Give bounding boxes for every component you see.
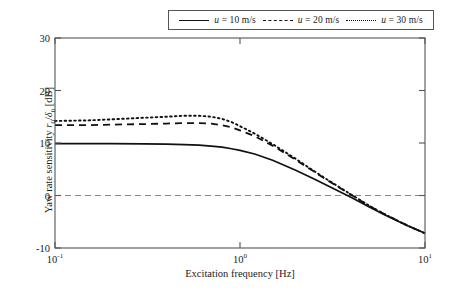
y-axis-label-symbol-den: δ xyxy=(43,112,54,117)
x-axis-tick-labels: 10-1 100 101 xyxy=(0,0,450,294)
y-axis-label-symbol-num-sub: 0 xyxy=(49,120,57,124)
x-tick-mantissa-10: 10 xyxy=(418,254,429,265)
x-tick-exponent-0p1: -1 xyxy=(57,252,63,260)
x-axis-label: Excitation frequency [Hz] xyxy=(55,268,425,279)
y-axis-label-symbol-den-sub: 0 xyxy=(49,109,57,113)
y-axis-label-suffix: [dB] xyxy=(43,87,54,109)
y-axis-label-prefix: Yaw rate sensitivity xyxy=(43,128,54,214)
chart-figure: u = 10 m/s u = 20 m/s u = 30 m/s 30 20 1… xyxy=(0,0,450,294)
y-axis-label: Yaw rate sensitivity r0/δ0 [dB] xyxy=(43,40,57,260)
x-tick-mantissa-1: 10 xyxy=(233,254,244,265)
x-tick-exponent-1: 0 xyxy=(244,252,248,260)
x-tick-label-1: 100 xyxy=(233,252,247,265)
x-tick-exponent-10: 1 xyxy=(429,252,433,260)
y-axis-label-symbol-num: r xyxy=(43,124,54,128)
y-axis-label-slash: / xyxy=(43,117,54,120)
x-tick-label-10: 101 xyxy=(418,252,432,265)
